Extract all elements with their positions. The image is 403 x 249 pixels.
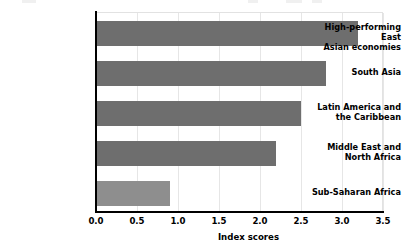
x-tick-label: 3.5	[363, 216, 403, 226]
x-tick-label: 2.0	[240, 216, 280, 226]
bar	[96, 181, 170, 206]
x-axis-spine	[95, 211, 384, 213]
category-label: Middle East and North Africa	[309, 142, 401, 162]
category-label: Sub-Saharan Africa	[309, 187, 401, 197]
category-label: Latin America and the Caribbean	[309, 102, 401, 122]
x-tick-label: 1.0	[158, 216, 198, 226]
x-tick-label: 0.0	[76, 216, 116, 226]
x-tick-label: 0.5	[117, 216, 157, 226]
bar	[96, 141, 276, 166]
bar	[96, 61, 326, 86]
category-label: High-performing East Asian economies	[309, 22, 401, 52]
x-tick-label: 2.5	[281, 216, 321, 226]
x-tick-label: 1.5	[199, 216, 239, 226]
x-axis-title: Index scores	[0, 232, 401, 242]
x-tick-label: 3.0	[322, 216, 362, 226]
category-label: South Asia	[309, 67, 401, 77]
cropped-title-remnant	[0, 0, 401, 5]
bar	[96, 101, 301, 126]
y-axis-spine	[95, 11, 97, 213]
